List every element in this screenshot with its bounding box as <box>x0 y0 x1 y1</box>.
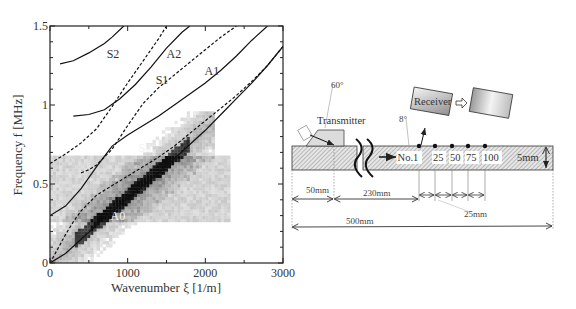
position-label: 50 <box>450 152 461 163</box>
leaky-wave-arrow <box>421 128 425 145</box>
y-tick-label: 1.5 <box>33 19 48 33</box>
x-tick-label: 1000 <box>116 266 140 280</box>
position-label: 100 <box>483 152 499 163</box>
receiver-angle: 8° <box>399 114 408 124</box>
figure: 010002000300000.511.5 S2A2S1A1S0A0 Waven… <box>0 0 576 309</box>
transmitter-angle: 60° <box>331 80 344 90</box>
experiment-setup-diagram: 60° Transmitter Receiver 8° No.125507510… <box>292 80 553 230</box>
transmitter-probe <box>298 125 313 140</box>
plate-left <box>292 146 357 170</box>
y-tick-label: 0 <box>42 256 48 270</box>
mode-label-A0: A0 <box>111 209 126 223</box>
y-tick-label: 1 <box>42 98 48 112</box>
x-axis-label: Wavenumber ξ [1/m] <box>111 280 221 295</box>
position-label: 25 <box>433 152 444 163</box>
y-tick-label: 0.5 <box>33 177 48 191</box>
thickness-label: 5mm <box>517 152 539 163</box>
dispersion-chart: 010002000300000.511.5 S2A2S1A1S0A0 Waven… <box>10 19 295 295</box>
move-arrow-icon <box>456 98 467 108</box>
mode-label-A2: A2 <box>167 47 182 61</box>
y-axis-label: Frequency f [MHz] <box>10 94 25 195</box>
dim-50mm: 50mm <box>306 185 329 195</box>
position-label: 75 <box>466 152 477 163</box>
mode-label-A1: A1 <box>205 64 220 78</box>
mode-label-S1: S1 <box>156 73 169 87</box>
x-tick-label: 2000 <box>193 266 217 280</box>
receiver-probe-next <box>469 88 513 119</box>
mode-label-S0: S0 <box>139 141 152 155</box>
dim-500mm-arrow <box>293 226 552 227</box>
receiver-label: Receiver <box>414 96 452 107</box>
curve-A2 <box>73 26 190 116</box>
transmitter-wedge <box>306 130 344 146</box>
dim-25mm: 25mm <box>464 209 487 219</box>
mode-label-S2: S2 <box>107 47 120 61</box>
dim-230mm: 230mm <box>363 188 391 198</box>
position-label: No.1 <box>398 152 419 163</box>
x-tick-label: 3000 <box>271 266 295 280</box>
dim-500mm: 500mm <box>346 216 374 226</box>
transmitter-label: Transmitter <box>317 115 366 126</box>
measurement-points: No.1255075100 <box>397 144 502 201</box>
